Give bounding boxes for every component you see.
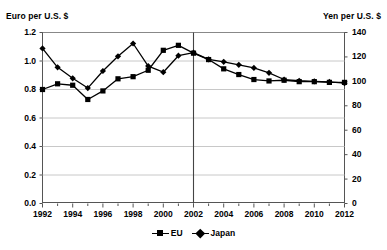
data-point-japan-2007 [266, 70, 272, 76]
left-tick-0.4: 0.4 [6, 142, 36, 151]
left-tick-0.0: 0.0 [6, 199, 36, 208]
x-tick-2004: 2004 [207, 209, 241, 219]
x-tick-2008: 2008 [267, 209, 301, 219]
exchange-rate-chart: Euro per U.S. $ Yen per U.S. $ 0.00.20.4… [0, 0, 387, 250]
legend-item-eu[interactable]: EU [152, 228, 183, 238]
right-tick-20: 20 [352, 175, 382, 184]
left-tick-0.6: 0.6 [6, 114, 36, 123]
data-point-eu-2004 [221, 66, 226, 71]
data-point-eu-2007 [266, 78, 271, 83]
right-tick-0: 0 [352, 199, 382, 208]
data-point-eu-1998 [131, 74, 136, 79]
data-point-eu-2001 [176, 43, 181, 48]
right-tick-140: 140 [352, 28, 382, 37]
left-axis-tick-marks [40, 33, 43, 204]
data-point-eu-2000 [161, 48, 166, 53]
chart-legend: EUJapan [0, 228, 387, 238]
data-point-japan-2006 [251, 65, 257, 71]
right-tick-120: 120 [352, 52, 382, 61]
legend-label-eu: EU [171, 228, 183, 238]
data-point-japan-2005 [236, 62, 242, 68]
data-point-eu-1993 [55, 81, 60, 86]
x-tick-1996: 1996 [86, 209, 120, 219]
x-tick-1994: 1994 [56, 209, 90, 219]
data-point-eu-1995 [85, 97, 90, 102]
right-axis-tick-marks [345, 33, 348, 204]
data-point-eu-1997 [115, 76, 120, 81]
x-tick-1992: 1992 [26, 209, 60, 219]
data-point-eu-1996 [100, 88, 105, 93]
square-marker-icon [152, 230, 169, 237]
x-tick-2000: 2000 [146, 209, 180, 219]
data-point-eu-1994 [70, 83, 75, 88]
x-tick-2006: 2006 [237, 209, 271, 219]
left-tick-0.8: 0.8 [6, 85, 36, 94]
right-tick-100: 100 [352, 77, 382, 86]
data-point-eu-2005 [236, 72, 241, 77]
left-tick-1.2: 1.2 [6, 28, 36, 37]
legend-item-japan[interactable]: Japan [192, 228, 236, 238]
data-point-japan-2004 [221, 59, 227, 65]
x-tick-2012: 2012 [328, 209, 362, 219]
right-tick-60: 60 [352, 126, 382, 135]
data-point-eu-2006 [251, 77, 256, 82]
left-tick-0.2: 0.2 [6, 171, 36, 180]
x-axis-tick-marks [43, 204, 345, 208]
diamond-marker-icon [192, 230, 209, 237]
x-tick-2010: 2010 [297, 209, 331, 219]
x-tick-2002: 2002 [177, 209, 211, 219]
x-tick-1998: 1998 [116, 209, 150, 219]
right-tick-40: 40 [352, 150, 382, 159]
right-tick-80: 80 [352, 101, 382, 110]
legend-label-japan: Japan [211, 228, 236, 238]
data-point-eu-1992 [40, 87, 45, 92]
left-tick-1.0: 1.0 [6, 57, 36, 66]
